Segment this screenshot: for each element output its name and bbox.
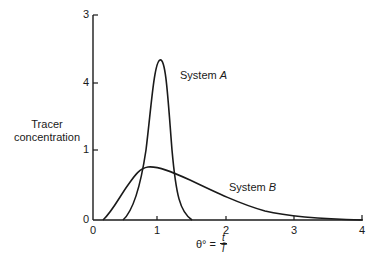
y-tick-label: 1 xyxy=(75,143,89,155)
x-tick-label: 4 xyxy=(355,224,369,236)
x-axis-label-fraction: t T̄ xyxy=(220,233,227,254)
series-label-system-a: System A xyxy=(180,69,227,82)
y-tick-label: 3 xyxy=(75,8,89,20)
x-tick-label: 3 xyxy=(287,224,301,236)
y-tick-label: 4 xyxy=(75,76,89,88)
series-label-system-b: System B xyxy=(229,181,276,194)
fraction-denominator: T̄ xyxy=(220,244,226,254)
series-system-a-curve xyxy=(123,60,192,220)
x-axis-label-lhs: θ° = xyxy=(196,238,216,250)
x-tick-label: 1 xyxy=(150,224,164,236)
x-axis-label: θ° = t T̄ xyxy=(196,233,227,254)
y-axis-label: Tracer concentration xyxy=(2,118,92,144)
y-axis-label-line1: Tracer xyxy=(2,118,92,131)
y-ticks xyxy=(93,15,98,150)
x-tick-label: 0 xyxy=(86,224,100,236)
